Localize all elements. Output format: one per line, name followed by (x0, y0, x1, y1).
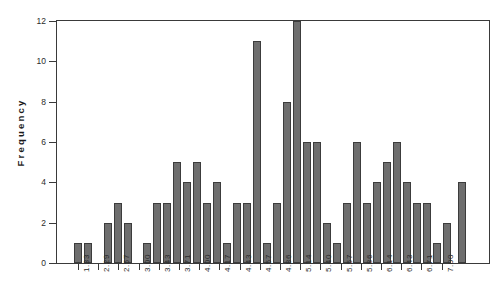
x-tick-label: 2.57 (122, 232, 131, 272)
x-tick-label: 1.33 (82, 232, 91, 272)
x-tick-label: 4.57 (264, 232, 273, 272)
x-tick-label: 2.29 (102, 232, 111, 272)
x-tick-label: 3.43 (163, 232, 172, 272)
x-tick-label: 5.40 (324, 232, 333, 272)
x-tick-label: 4.43 (244, 232, 253, 272)
x-tick-label: 6.71 (425, 232, 434, 272)
histogram-figure: Frequency 024681012 1.332.292.573.003.43… (0, 0, 502, 304)
x-tick-label: 4.86 (284, 232, 293, 272)
x-tick-label: 4.17 (223, 232, 232, 272)
x-tick-label: 5.14 (304, 232, 313, 272)
x-tick-label: 7.00 (446, 232, 455, 272)
x-tick-label: 3.00 (143, 232, 152, 272)
x-tick-label: 3.71 (183, 232, 192, 272)
x-axis-tick-labels: 1.332.292.573.003.433.714.004.174.434.57… (0, 0, 502, 304)
x-tick-label: 5.86 (365, 232, 374, 272)
x-tick-label: 6.14 (385, 232, 394, 272)
x-tick-label: 5.57 (345, 232, 354, 272)
x-tick-label: 4.00 (203, 232, 212, 272)
x-tick-label: 6.43 (405, 232, 414, 272)
